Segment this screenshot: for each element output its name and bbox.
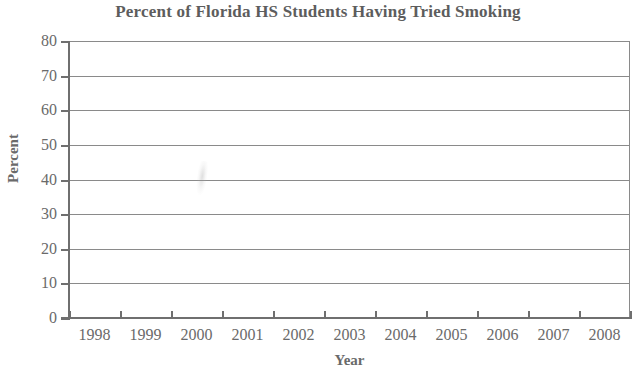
y-axis-tick-label: 60	[0, 102, 57, 118]
y-axis-tick	[61, 41, 70, 43]
chart-title: Percent of Florida HS Students Having Tr…	[0, 2, 636, 22]
x-axis-tick	[375, 311, 377, 319]
y-axis-tick	[61, 76, 70, 78]
gridline	[69, 145, 630, 146]
x-axis-tick-label: 2002	[273, 326, 324, 344]
x-axis-tick-label: 2008	[579, 326, 630, 344]
x-axis-tick	[426, 311, 428, 319]
scan-smudge-artifact	[195, 160, 210, 195]
x-axis-tick	[120, 311, 122, 319]
y-axis-tick-label: 80	[0, 33, 57, 49]
x-axis-tick	[630, 311, 632, 319]
y-axis-tick-label: 0	[0, 310, 57, 326]
y-axis-tick-label: 70	[0, 68, 57, 84]
gridline	[69, 283, 630, 284]
y-axis-tick	[61, 180, 70, 182]
x-axis-tick-label: 2000	[171, 326, 222, 344]
x-axis-tick-label: 2006	[477, 326, 528, 344]
y-axis-tick	[61, 145, 70, 147]
chart-figure: Percent of Florida HS Students Having Tr…	[0, 0, 636, 374]
x-axis-tick	[222, 311, 224, 319]
y-axis-tick-label: 30	[0, 206, 57, 222]
x-axis-tick	[324, 311, 326, 319]
y-axis-tick	[61, 249, 70, 251]
y-axis-tick	[61, 110, 70, 112]
gridline	[69, 214, 630, 215]
x-axis-tick-label: 2004	[375, 326, 426, 344]
y-axis-tick-label: 10	[0, 275, 57, 291]
y-axis-tick-label: 20	[0, 241, 57, 257]
x-axis-tick-label: 1999	[120, 326, 171, 344]
y-axis-tick	[61, 214, 70, 216]
x-axis-tick	[477, 311, 479, 319]
x-axis-tick-label: 2005	[426, 326, 477, 344]
plot-area	[69, 41, 630, 318]
gridline	[69, 110, 630, 111]
x-axis-tick-label: 2003	[324, 326, 375, 344]
x-axis-tick	[528, 311, 530, 319]
x-axis-tick	[69, 311, 71, 319]
x-axis-tick	[579, 311, 581, 319]
x-axis-tick	[273, 311, 275, 319]
y-axis-tick-label: 50	[0, 137, 57, 153]
gridline	[69, 180, 630, 181]
gridline	[69, 249, 630, 250]
x-axis-tick-label: 2007	[528, 326, 579, 344]
gridline	[69, 41, 630, 42]
x-axis-tick-label: 1998	[69, 326, 120, 344]
gridline	[69, 76, 630, 77]
x-axis-tick-label: 2001	[222, 326, 273, 344]
x-axis-title: Year	[69, 352, 630, 369]
y-axis-tick-label: 40	[0, 172, 57, 188]
y-axis-tick	[61, 283, 70, 285]
x-axis-tick	[171, 311, 173, 319]
x-axis-line	[61, 317, 630, 319]
